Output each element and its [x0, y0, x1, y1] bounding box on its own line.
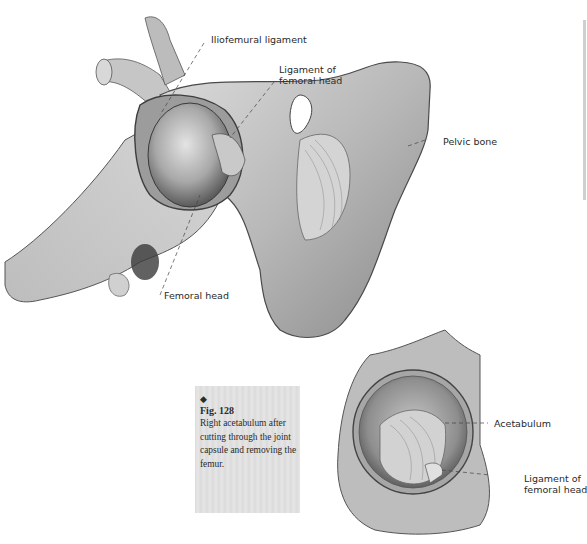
caption-line: capsule and removing the [200, 444, 297, 458]
label-ligament-femoral-head-bottom-2: femoral head [524, 484, 587, 496]
hip-joint-illustration [0, 0, 560, 350]
label-pelvic-bone: Pelvic bone [443, 136, 497, 148]
caption-line: femur. [200, 458, 297, 472]
figure-caption-box: ◆ Fig. 128 Right acetabulum after cuttin… [195, 386, 300, 513]
label-ligament-femoral-head-top-2: femoral head [279, 75, 342, 87]
caption-line: Right acetabulum after [200, 417, 297, 431]
caption-marker: ◆ [200, 394, 297, 404]
figure-number: Fig. 128 [200, 404, 297, 417]
label-iliofemoral-ligament: Iliofemural ligament [211, 34, 307, 46]
label-acetabulum: Acetabulum [494, 418, 551, 430]
page-edge-bar [583, 20, 586, 200]
label-femoral-head: Femoral head [164, 290, 229, 302]
caption-line: cutting through the joint [200, 431, 297, 445]
acetabulum-illustration [330, 325, 500, 540]
